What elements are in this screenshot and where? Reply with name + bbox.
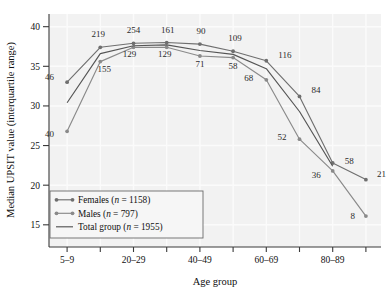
chart-legend: Females (n = 1158)Males (n = 797)Total g… — [50, 191, 203, 238]
y-tick-label: 30 — [31, 101, 41, 111]
point-label: 129 — [158, 49, 172, 59]
point-label: 161 — [161, 25, 175, 35]
y-tick-label: 35 — [31, 62, 41, 72]
data-point — [364, 178, 368, 182]
y-axis-ticks: 152025303540 — [31, 22, 50, 230]
point-label: 58 — [345, 156, 355, 166]
upsit-age-line-chart: 152025303540 5–920–2940–4960–6980–89 462… — [0, 0, 389, 300]
point-label: 21 — [377, 169, 386, 179]
data-point — [264, 78, 268, 82]
y-tick-label: 25 — [31, 141, 41, 151]
legend-marker-dot — [71, 211, 75, 215]
data-point — [98, 45, 102, 49]
point-label: 116 — [278, 50, 292, 60]
y-tick-label: 15 — [31, 220, 41, 230]
x-axis-ticks: 5–920–2940–4960–6980–89 — [60, 247, 366, 265]
data-point — [65, 129, 69, 133]
y-tick-label: 40 — [31, 22, 41, 32]
legend-label: Total group (n = 1955) — [78, 222, 163, 233]
data-point — [198, 42, 202, 46]
data-point — [198, 54, 202, 58]
point-label: 68 — [244, 73, 254, 83]
x-tick-label: 20–29 — [122, 255, 146, 265]
x-tick-label: 60–69 — [254, 255, 278, 265]
point-label: 155 — [98, 64, 112, 74]
point-label: 46 — [45, 72, 55, 82]
point-label: 129 — [123, 49, 137, 59]
point-label: 40 — [45, 129, 55, 139]
x-tick-label: 80–89 — [321, 255, 345, 265]
data-point — [298, 137, 302, 141]
data-point — [264, 59, 268, 63]
data-point — [231, 49, 235, 53]
point-label: 52 — [278, 132, 287, 142]
point-label: 254 — [127, 25, 141, 35]
x-tick-label: 5–9 — [60, 255, 75, 265]
legend-marker-dot — [55, 211, 59, 215]
point-label: 71 — [195, 59, 204, 69]
point-label: 84 — [312, 85, 322, 95]
data-point — [364, 214, 368, 218]
legend-marker-dot — [71, 198, 75, 202]
point-label: 219 — [92, 29, 106, 39]
legend-label: Males (n = 797) — [78, 209, 138, 220]
point-label: 36 — [312, 170, 322, 180]
x-tick-label: 40–49 — [188, 255, 212, 265]
point-label: 8 — [350, 211, 355, 221]
legend-label: Females (n = 1158) — [78, 195, 150, 206]
point-label: 90 — [196, 26, 206, 36]
data-point — [132, 41, 136, 45]
y-tick-label: 20 — [31, 181, 41, 191]
point-label: 109 — [228, 33, 242, 43]
data-point — [65, 80, 69, 84]
data-point — [231, 56, 235, 60]
y-axis-title: Median UPSIT value (interquartile range) — [5, 42, 17, 218]
data-point — [331, 169, 335, 173]
data-point — [298, 95, 302, 99]
legend-marker-dot — [55, 198, 59, 202]
x-axis-title: Age group — [193, 276, 238, 287]
data-point — [165, 41, 169, 45]
chart-figure: 152025303540 5–920–2940–4960–6980–89 462… — [0, 0, 389, 300]
point-label: 58 — [229, 61, 239, 71]
